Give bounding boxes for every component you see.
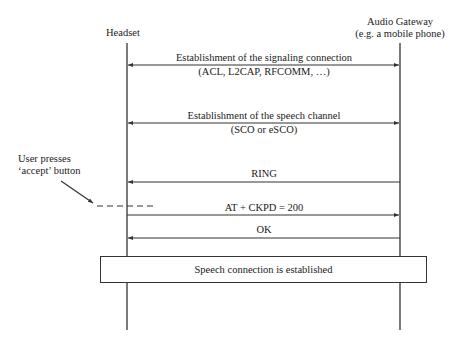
annotation-pointer — [61, 181, 93, 203]
headset-label: Headset — [106, 27, 140, 39]
gateway-label-line1: Audio Gateway — [345, 16, 455, 28]
signaling-label-line2: (ACL, L2CAP, RFCOMM, …) — [128, 66, 400, 78]
speech-channel-label: Establishment of the speech channel (SCO… — [128, 110, 400, 136]
speech-connection-label: Speech connection is established — [195, 264, 333, 275]
user-action-annotation: User presses ‘accept’ button — [18, 153, 80, 177]
ring-label: RING — [128, 168, 400, 180]
speech-connection-box: Speech connection is established — [100, 256, 427, 283]
signaling-label-line1: Establishment of the signaling connectio… — [128, 52, 400, 64]
gateway-label-line2: (e.g. a mobile phone) — [345, 28, 455, 40]
annotation-line2: ‘accept’ button — [18, 165, 80, 177]
speech-channel-label-line1: Establishment of the speech channel — [128, 110, 400, 122]
ckpd-label: AT + CKPD = 200 — [128, 202, 400, 214]
signaling-label: Establishment of the signaling connectio… — [128, 52, 400, 78]
gateway-label: Audio Gateway (e.g. a mobile phone) — [345, 16, 455, 40]
annotation-line1: User presses — [18, 153, 80, 165]
ok-label: OK — [128, 224, 400, 236]
speech-channel-label-line2: (SCO or eSCO) — [128, 124, 400, 136]
